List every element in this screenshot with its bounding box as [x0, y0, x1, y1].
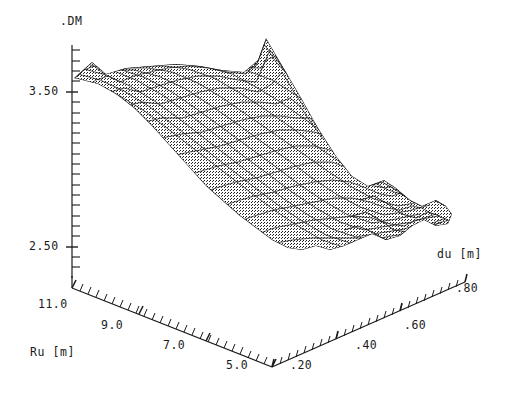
ru-axis-title: Ru [m]: [30, 345, 75, 359]
z-axis-title: .DM: [60, 14, 83, 28]
surface-plot-figure: .DM 3.50 2.50 11.0 9.0 7.0 5.0 Ru [m] .2…: [0, 0, 514, 399]
z-axis-tick-3.50: 3.50: [29, 84, 59, 98]
ru-axis-tick-9.0: 9.0: [101, 318, 123, 332]
du-axis-tick-0.20: .20: [290, 358, 312, 372]
z-axis: [66, 45, 80, 288]
du-axis: [272, 274, 467, 367]
z-axis-tick-2.50: 2.50: [29, 239, 59, 253]
ru-axis-tick-5.0: 5.0: [226, 358, 248, 372]
plot-canvas: [0, 0, 514, 399]
du-axis-tick-0.40: .40: [355, 338, 377, 352]
du-axis-title: du [m]: [437, 247, 482, 261]
ru-axis-tick-11.0: 11.0: [38, 297, 68, 311]
surface-mesh: [74, 38, 452, 250]
du-axis-tick-0.60: .60: [404, 318, 426, 332]
du-axis-tick-0.80: .80: [456, 281, 478, 295]
ru-axis-tick-7.0: 7.0: [163, 338, 185, 352]
